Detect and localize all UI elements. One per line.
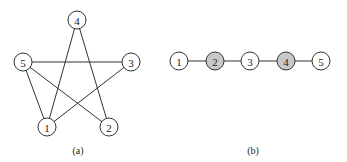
- node-label: 1: [44, 122, 50, 134]
- graph_a-edge-4-2: [77, 20, 109, 127]
- node-label: 5: [318, 56, 324, 68]
- node-label: 5: [20, 57, 26, 69]
- node-label: 1: [176, 56, 182, 68]
- graph-b: 12345 (b): [170, 52, 330, 157]
- graph_b-node-1: 1: [170, 52, 188, 70]
- graph-a-nodes: 12345: [14, 11, 140, 136]
- graph_a-edge-3-1: [47, 62, 131, 127]
- caption-a: (a): [72, 145, 83, 157]
- node-label: 2: [106, 122, 112, 134]
- graph-figure: 12345 (a) 12345 (b): [0, 0, 347, 162]
- graph-a-edges: [23, 20, 131, 127]
- graph_b-node-2: 2: [206, 52, 224, 70]
- graph_a-node-4: 4: [68, 11, 86, 29]
- node-label: 4: [283, 56, 289, 68]
- graph_b-node-4: 4: [277, 52, 295, 70]
- graph_a-node-2: 2: [100, 118, 118, 136]
- node-label: 4: [74, 15, 80, 27]
- graph_a-node-5: 5: [14, 53, 32, 71]
- graph_a-edge-5-1: [23, 62, 47, 127]
- graph_b-node-5: 5: [312, 52, 330, 70]
- node-label: 2: [212, 56, 218, 68]
- node-label: 3: [247, 56, 253, 68]
- graph_a-node-3: 3: [122, 53, 140, 71]
- graph_a-node-1: 1: [38, 118, 56, 136]
- node-label: 3: [128, 57, 134, 69]
- caption-b: (b): [247, 145, 259, 157]
- graph_a-edge-5-2: [23, 62, 109, 127]
- graph-a: 12345 (a): [14, 11, 140, 157]
- graph_b-node-3: 3: [241, 52, 259, 70]
- graph_a-edge-4-1: [47, 20, 77, 127]
